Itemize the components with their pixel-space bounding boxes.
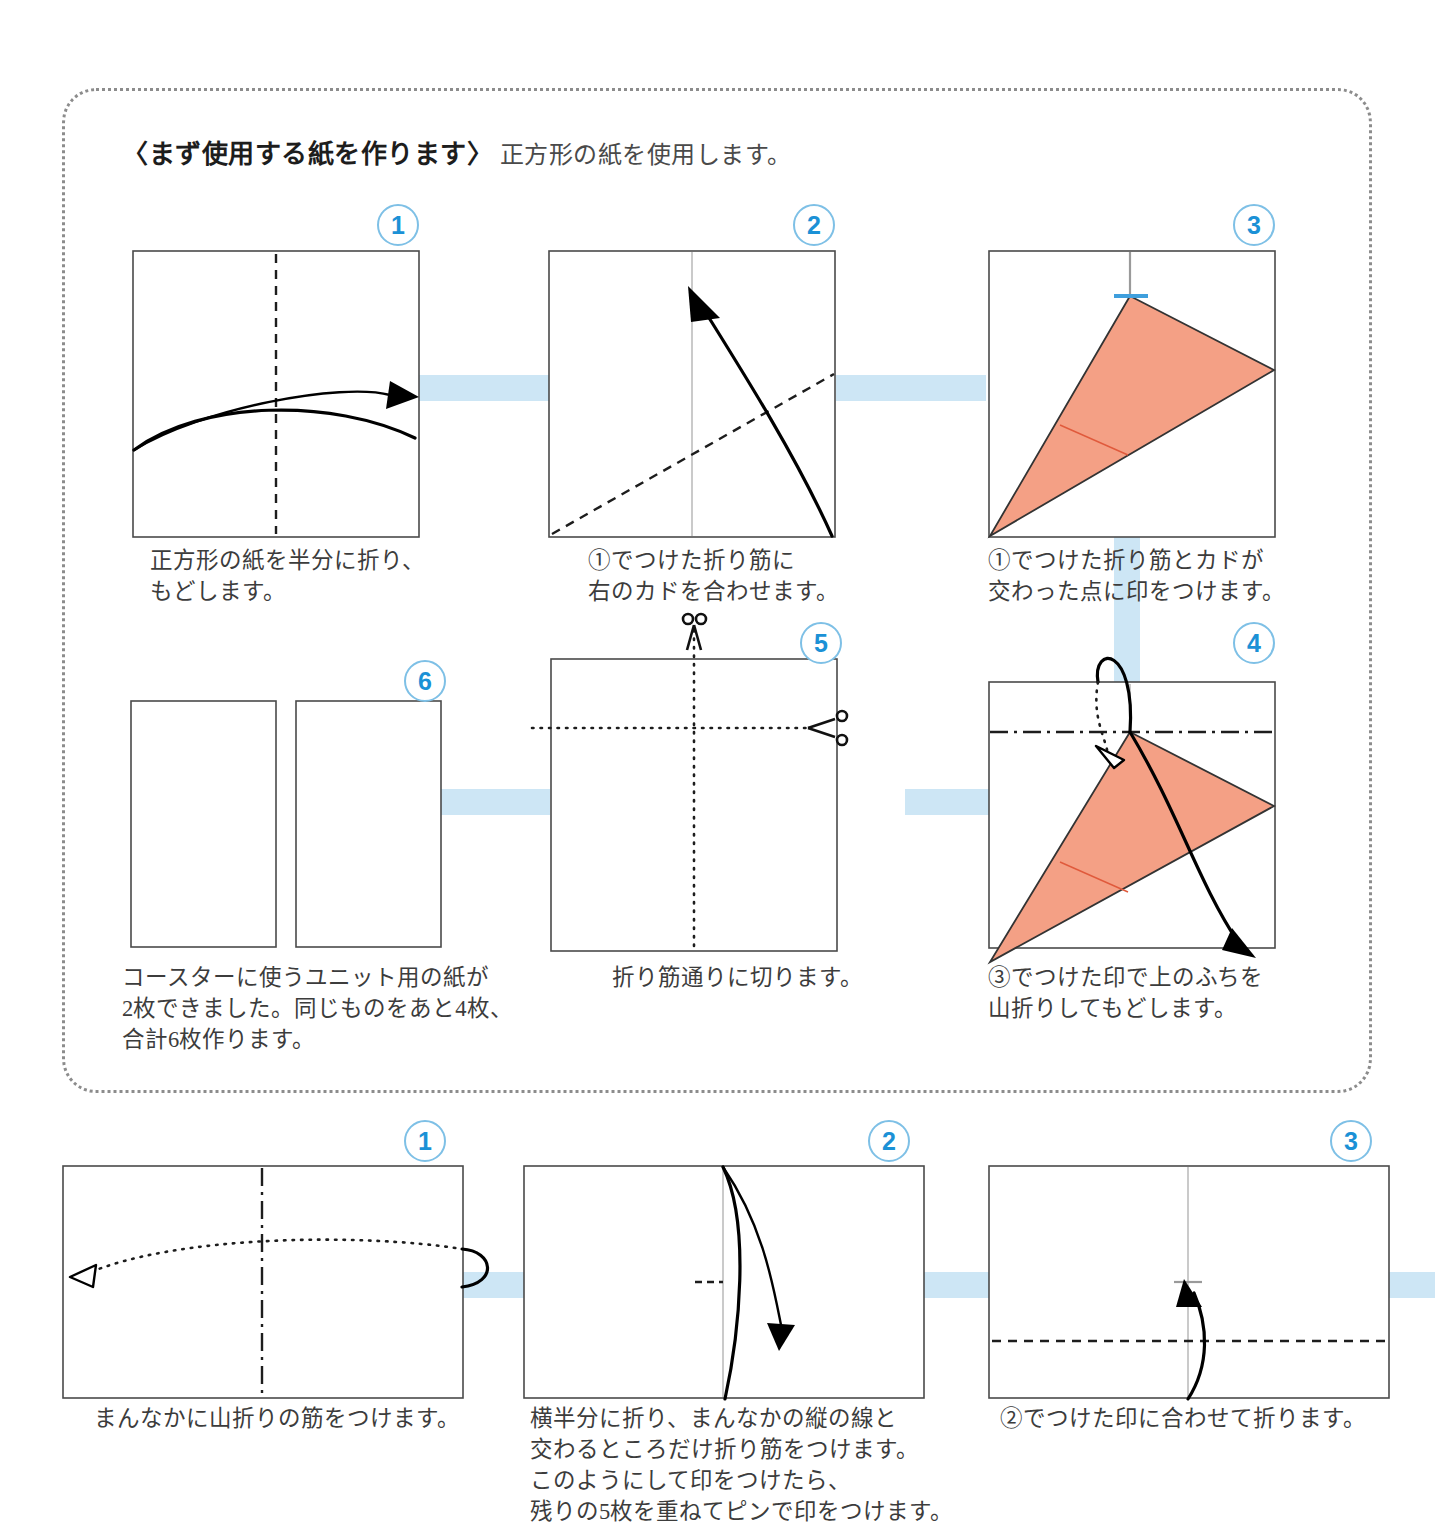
step-3-caption: ①でつけた折り筋とカドが 交わった点に印をつけます。 [988,545,1408,607]
step-6-number: 6 [418,667,432,696]
connector-ribbon-2-3 [836,375,986,401]
step-6-diagram [130,700,450,950]
step-2-number: 2 [807,211,821,240]
step-2-caption: ①でつけた折り筋に 右のカドを合わせます。 [588,545,968,607]
step-4-figure [988,662,1288,962]
step-2-figure [548,250,836,538]
step-6-figure [130,700,450,950]
bottom-step-3-number: 3 [1344,1127,1358,1156]
bottom-step-2-figure [523,1165,933,1400]
step-1-badge: 1 [377,204,419,246]
step-6-caption: コースターに使うユニット用の紙が 2枚できました。同じものをあと4枚、 合計6枚… [122,962,552,1055]
step-3-figure [988,250,1276,538]
bottom-step-3-figure [988,1165,1398,1400]
page-title: 〈まず使用する紙を作ります〉 正方形の紙を使用します。 [122,133,792,170]
step-3-number: 3 [1247,211,1261,240]
step-5-caption: 折り筋通りに切ります。 [612,962,992,993]
bottom-step-1-caption: まんなかに山折りの筋をつけます。 [94,1403,524,1434]
connector-ribbon-5-6 [440,789,550,815]
step-5-figure [550,655,850,955]
bottom-step-1-number: 1 [418,1127,432,1156]
bottom-step-2-caption: 横半分に折り、まんなかの縦の線と 交わるところだけ折り筋をつけます。 このように… [530,1403,1010,1527]
step-4-caption: ③でつけた印で上のふちを 山折りしてもどします。 [988,962,1408,1024]
bottom-step-3-diagram [988,1165,1398,1400]
bottom-step-2-diagram [523,1165,933,1400]
unit-sheet-left [131,701,276,947]
step-5-badge: 5 [800,622,842,664]
step-1-diagram [132,250,420,538]
headline-note: 正方形の紙を使用します。 [500,142,792,168]
bottom-step-2-badge: 2 [868,1120,910,1162]
connector-ribbon-4-5 [905,789,990,815]
step-1-caption: 正方形の紙を半分に折り、 もどします。 [150,545,530,607]
step-1-figure [132,250,420,538]
bottom-step-2-number: 2 [882,1127,896,1156]
step-1-number: 1 [391,211,405,240]
bottom-step-3-caption: ②でつけた印に合わせて折ります。 [1000,1403,1430,1434]
step-4-number: 4 [1247,629,1261,658]
bottom-step-3-badge: 3 [1330,1120,1372,1162]
step-3-badge: 3 [1233,204,1275,246]
step-4-diagram [988,662,1288,962]
step-6-badge: 6 [404,660,446,702]
bottom-step-1-diagram [62,1165,472,1400]
unit-sheet-right [296,701,441,947]
bottom-step-1-badge: 1 [404,1120,446,1162]
bottom-step-1-figure [62,1165,472,1400]
headline-bracketed: 〈まず使用する紙を作ります〉 [122,140,493,169]
step-3-diagram [988,250,1276,538]
connector-ribbon-1-2 [415,375,550,401]
step-2-diagram [548,250,836,538]
step-4-badge: 4 [1233,622,1275,664]
step-5-number: 5 [814,629,828,658]
step-2-badge: 2 [793,204,835,246]
step-5-diagram [550,655,850,955]
